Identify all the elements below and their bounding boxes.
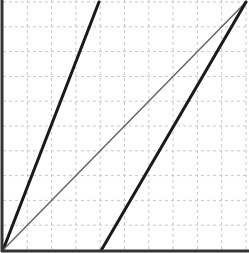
line-chart [0,0,249,253]
